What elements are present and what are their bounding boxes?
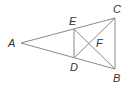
label-F: F bbox=[96, 37, 104, 49]
label-A: A bbox=[7, 37, 15, 49]
triangle-diagram: A E D C B F bbox=[0, 0, 125, 88]
label-D: D bbox=[70, 61, 78, 73]
label-E: E bbox=[69, 15, 77, 27]
label-B: B bbox=[113, 72, 120, 84]
label-C: C bbox=[113, 3, 121, 15]
segment-DC bbox=[74, 18, 115, 58]
